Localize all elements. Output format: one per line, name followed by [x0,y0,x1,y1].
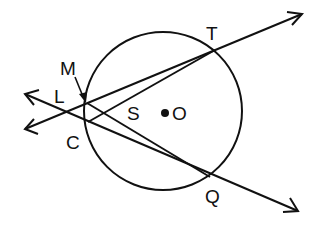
label-O: O [172,103,187,124]
label-C: C [66,132,80,153]
diagram-canvas: T Q M L C S O [0,0,322,226]
geometry-diagram: T Q M L C S O [0,0,322,226]
label-T: T [206,23,218,44]
center-point-O [161,109,169,117]
label-S: S [127,103,140,124]
pointer-arrowhead-icon [79,92,87,103]
segment-C-T [88,50,215,122]
label-L: L [54,86,65,107]
label-M: M [60,58,76,79]
label-Q: Q [205,186,220,207]
